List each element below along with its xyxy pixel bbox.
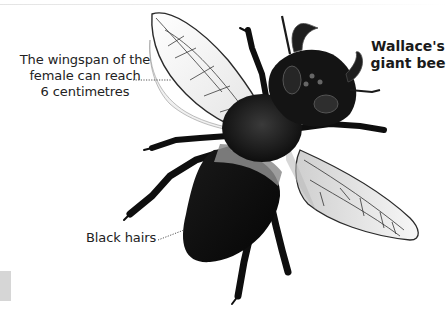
diagram-title: Wallace's giant bee [368, 38, 448, 72]
side-tab [0, 271, 11, 301]
wingspan-line-3: 6 centimetres [10, 84, 160, 100]
antenna-left [282, 16, 290, 54]
mandible-left [292, 23, 318, 52]
right-wing [286, 140, 418, 240]
black-hairs-label: Black hairs [86, 230, 156, 246]
wingspan-line-2: female can reach [10, 68, 160, 84]
title-line-2: giant bee [368, 55, 448, 72]
mandible-right [346, 52, 363, 82]
diagram-canvas: The wingspan of the female can reach 6 c… [0, 0, 448, 316]
wingspan-line-1: The wingspan of the [10, 52, 160, 68]
hairs-leader [158, 230, 184, 240]
wingspan-label: The wingspan of the female can reach 6 c… [10, 52, 160, 100]
title-line-1: Wallace's [368, 38, 448, 55]
